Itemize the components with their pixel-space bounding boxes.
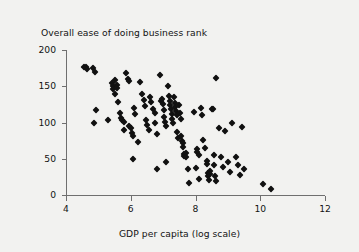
data-point (212, 178, 219, 185)
data-point (233, 154, 240, 161)
data-point (145, 126, 152, 133)
y-tick-label-150: 150 (30, 80, 56, 91)
data-point (112, 90, 119, 97)
data-point (213, 75, 220, 82)
data-point (226, 168, 233, 175)
data-point (130, 156, 137, 163)
data-point (267, 186, 274, 193)
data-point (185, 165, 192, 172)
data-point (198, 111, 205, 118)
y-tick-50 (62, 159, 67, 160)
data-point (154, 165, 161, 172)
x-tick-label-4: 4 (57, 203, 75, 214)
data-point (211, 162, 218, 169)
data-point (221, 128, 228, 135)
y-tick-200 (62, 50, 67, 51)
data-point (162, 123, 169, 130)
data-point (210, 152, 217, 159)
x-tick-8 (196, 196, 197, 201)
y-tick-label-200: 200 (30, 44, 56, 55)
data-point (148, 99, 155, 106)
data-point (163, 158, 170, 165)
data-point (195, 152, 202, 159)
y-tick-100 (62, 123, 67, 124)
x-tick-12 (325, 196, 326, 201)
data-point (191, 109, 198, 116)
data-point (153, 131, 160, 138)
data-point (93, 107, 100, 114)
data-point (260, 181, 267, 188)
data-point (224, 159, 231, 166)
y-tick-label-100: 100 (30, 117, 56, 128)
data-point (202, 144, 209, 151)
data-point (185, 179, 192, 186)
data-point (105, 117, 112, 124)
data-point (92, 68, 99, 75)
data-point (197, 104, 204, 111)
y-tick-label-50: 50 (30, 153, 56, 164)
x-tick-label-6: 6 (122, 203, 140, 214)
data-point (156, 71, 163, 78)
data-point (141, 102, 148, 109)
data-point (90, 120, 97, 127)
x-axis-label: GDP per capita (log scale) (0, 228, 359, 239)
x-tick-4 (66, 196, 67, 201)
data-point (151, 110, 158, 117)
y-tick-150 (62, 86, 67, 87)
data-point (241, 165, 248, 172)
data-point (200, 136, 207, 143)
x-tick-label-12: 12 (316, 203, 334, 214)
data-point (152, 120, 159, 127)
data-point (183, 154, 190, 161)
data-point (237, 172, 244, 179)
data-point (177, 115, 184, 122)
data-point (115, 99, 122, 106)
x-tick-label-8: 8 (187, 203, 205, 214)
data-point (169, 120, 176, 127)
x-tick-10 (260, 196, 261, 201)
x-tick-label-10: 10 (251, 203, 269, 214)
data-point (239, 123, 246, 130)
data-point (164, 82, 171, 89)
data-point (228, 119, 235, 126)
y-tick-label-0: 0 (30, 189, 56, 200)
x-tick-6 (131, 196, 132, 201)
chart-figure: Overall ease of doing business rank 0501… (0, 0, 359, 252)
data-point (131, 110, 138, 117)
data-point (218, 153, 225, 160)
data-point (134, 139, 141, 146)
data-point (196, 176, 203, 183)
scatter-plot-area: 0501001502004681012 (0, 0, 359, 252)
data-point (192, 165, 199, 172)
data-point (137, 78, 144, 85)
